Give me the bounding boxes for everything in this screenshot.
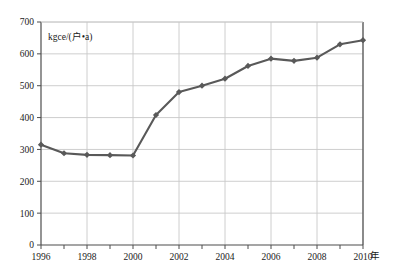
x-axis-tick-label: 1996 bbox=[32, 252, 51, 262]
y-axis-unit-label: kgce/(户•a) bbox=[48, 31, 92, 43]
chart-container: 0100200300400500600700 19961998200020022… bbox=[0, 0, 393, 277]
x-axis-tick-label: 2006 bbox=[262, 252, 281, 262]
x-axis-tick-label: 2000 bbox=[124, 252, 143, 262]
x-axis-tick-label: 2002 bbox=[170, 252, 189, 262]
x-axis-name-label: 年 bbox=[370, 250, 380, 261]
y-axis-tick-label: 300 bbox=[20, 145, 35, 155]
y-axis-tick-label: 200 bbox=[20, 177, 35, 187]
y-axis-tick-label: 400 bbox=[20, 113, 35, 123]
y-axis-tick-label: 0 bbox=[29, 240, 34, 250]
x-axis-tick-label: 2004 bbox=[216, 252, 235, 262]
y-axis-tick-label: 500 bbox=[20, 81, 35, 91]
y-axis-tick-label: 600 bbox=[20, 49, 35, 59]
x-axis-tick-label: 2008 bbox=[308, 252, 327, 262]
y-axis-tick-label: 700 bbox=[20, 17, 35, 27]
y-axis-tick-label: 100 bbox=[20, 209, 35, 219]
line-chart: 0100200300400500600700 19961998200020022… bbox=[0, 0, 393, 277]
x-axis-tick-label: 1998 bbox=[78, 252, 97, 262]
